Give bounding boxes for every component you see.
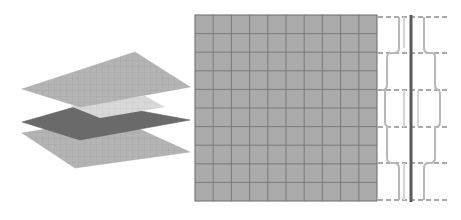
side-profile-view bbox=[378, 15, 448, 202]
profile-curve bbox=[382, 17, 399, 200]
exploded-plate-stack bbox=[22, 52, 190, 168]
top-plate bbox=[22, 52, 190, 107]
front-grid-view bbox=[195, 15, 377, 201]
diagram-canvas bbox=[0, 0, 461, 220]
profile-curve bbox=[424, 17, 440, 200]
